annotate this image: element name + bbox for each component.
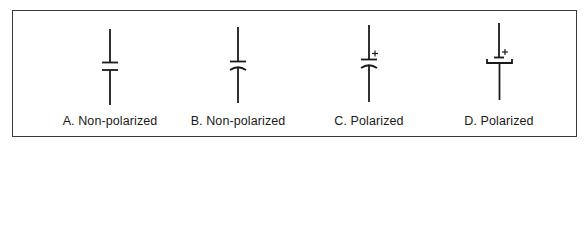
label-d-polarized: D. Polarized <box>464 114 533 128</box>
